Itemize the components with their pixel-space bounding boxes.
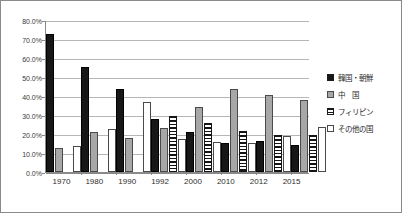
y-axis-tick-label: 70.0% [22, 37, 42, 44]
bar [283, 136, 291, 172]
bar [125, 138, 133, 172]
y-axis-tick-label: 20.0% [22, 132, 42, 139]
legend-item-label: その他の国 [338, 123, 373, 134]
bar [169, 116, 177, 172]
bar [230, 89, 238, 172]
x-axis: 19701980199019922000201020122015 [45, 177, 308, 186]
bar [186, 132, 194, 172]
bar-group [116, 21, 151, 172]
legend-item[interactable]: フィリピン [327, 103, 399, 120]
x-axis-tick-label: 1990 [111, 177, 144, 186]
bar [178, 139, 186, 172]
bar-chart: 80.0%70.0%60.0%50.0%40.0%30.0%20.0%10.0%… [0, 0, 402, 213]
bar-group [256, 21, 291, 172]
bar [151, 119, 159, 172]
bar [309, 135, 317, 172]
bar [213, 142, 221, 172]
x-axis-tick-label: 1980 [78, 177, 111, 186]
bar [90, 132, 98, 172]
bar-group [291, 21, 326, 172]
bar-group [46, 21, 81, 172]
bar [46, 34, 54, 172]
y-axis-tick-label: 40.0% [22, 94, 42, 101]
y-axis-tick-mark [42, 173, 45, 174]
bar-group [151, 21, 186, 172]
bar-group [81, 21, 116, 172]
x-axis-tick-label: 1970 [45, 177, 78, 186]
bar [55, 148, 63, 173]
bar [160, 128, 168, 172]
bar [195, 107, 203, 172]
bar [239, 131, 247, 172]
legend-swatch-icon [327, 125, 334, 132]
bar [300, 100, 308, 172]
bar [143, 102, 151, 172]
y-axis: 80.0%70.0%60.0%50.0%40.0%30.0%20.0%10.0%… [1, 21, 42, 173]
legend-item-label: フィリピン [338, 106, 373, 117]
legend-swatch-icon [327, 91, 334, 98]
bar [318, 127, 326, 172]
bar [265, 95, 273, 172]
legend-item[interactable]: 中 国 [327, 86, 399, 103]
bar-group [186, 21, 221, 172]
legend-swatch-icon [327, 108, 334, 115]
chart-legend: 韓国・朝鮮中 国フィリピンその他の国 [327, 69, 399, 137]
bar-groups [46, 21, 308, 172]
legend-item-label: 韓国・朝鮮 [338, 72, 373, 83]
bar [291, 145, 299, 172]
plot-area [45, 21, 308, 173]
legend-item-label: 中 国 [338, 89, 359, 100]
bar [256, 141, 264, 172]
gridline [46, 173, 309, 174]
bar [108, 129, 116, 173]
bar [274, 135, 282, 172]
bar [248, 143, 256, 172]
legend-swatch-icon [327, 74, 334, 81]
x-axis-tick-label: 2010 [209, 177, 242, 186]
x-axis-tick-label: 2012 [242, 177, 275, 186]
bar [221, 143, 229, 172]
bar-group [221, 21, 256, 172]
y-axis-tick-label: 30.0% [22, 113, 42, 120]
bar [116, 89, 124, 172]
x-axis-tick-label: 1992 [144, 177, 177, 186]
y-axis-tick-label: 80.0% [22, 18, 42, 25]
y-axis-tick-label: 0.0% [26, 170, 42, 177]
y-axis-tick-label: 60.0% [22, 56, 42, 63]
y-axis-tick-label: 10.0% [22, 151, 42, 158]
x-axis-tick-label: 2000 [177, 177, 210, 186]
bar [73, 146, 81, 172]
y-axis-tick-label: 50.0% [22, 75, 42, 82]
legend-item[interactable]: 韓国・朝鮮 [327, 69, 399, 86]
bar [81, 67, 89, 172]
legend-item[interactable]: その他の国 [327, 120, 399, 137]
x-axis-tick-label: 2015 [275, 177, 308, 186]
bar [204, 123, 212, 172]
